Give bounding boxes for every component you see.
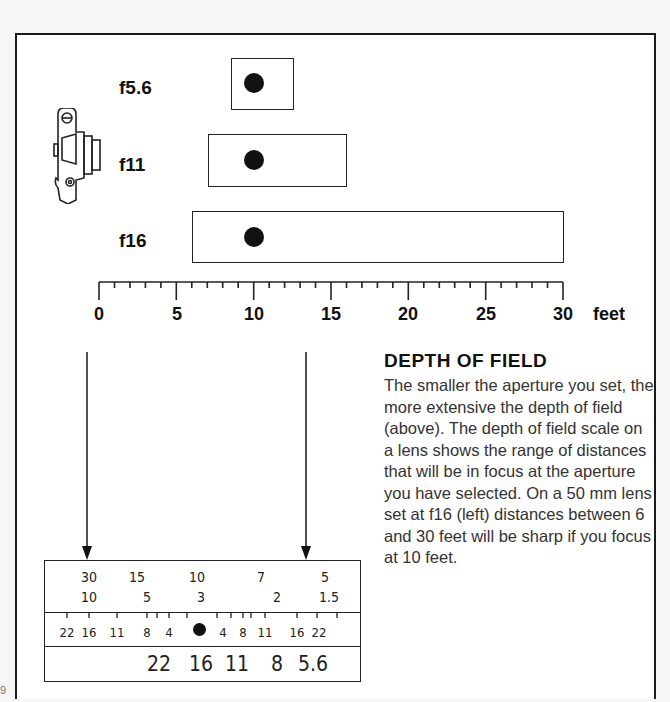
dof-mark-left: 4 (165, 625, 172, 640)
lens-dof-scale: 30 15 10 7 5 10 5 3 2 1.5 22 16 11 8 4 4… (44, 560, 361, 682)
arrow-left (80, 352, 94, 562)
feet-mark: 7 (257, 569, 265, 585)
aperture-ring-mark: 16 (189, 652, 213, 676)
dof-mark-right: 4 (219, 625, 226, 640)
dof-range-f11 (208, 134, 347, 187)
focus-point-dot (244, 73, 264, 93)
scale-tick-20: 20 (398, 304, 418, 325)
feet-mark: 5 (321, 569, 329, 585)
meter-mark: 1.5 (319, 589, 339, 605)
arrow-right (299, 352, 313, 562)
aperture-label-f16: f16 (119, 230, 146, 252)
dof-mark-right: 8 (239, 625, 246, 640)
scale-tick-5: 5 (172, 304, 182, 325)
aperture-label-f5-6: f5.6 (119, 77, 152, 99)
section-body: The smaller the aperture you set, the mo… (384, 375, 654, 569)
distance-scale-axis (95, 278, 570, 304)
scale-tick-25: 25 (476, 304, 496, 325)
feet-mark: 15 (129, 569, 145, 585)
feet-mark: 30 (81, 569, 97, 585)
feet-mark: 10 (189, 569, 205, 585)
aperture-label-f11: f11 (119, 154, 145, 176)
focus-index-dot (193, 623, 206, 636)
meter-mark: 5 (143, 589, 151, 605)
dof-mark-left: 11 (110, 625, 125, 640)
aperture-ring-mark: 8 (271, 652, 283, 676)
camera-side-icon (50, 108, 108, 204)
aperture-ring-mark: 11 (225, 652, 249, 676)
aperture-ring-mark: 22 (147, 652, 171, 676)
scale-unit: feet (593, 304, 625, 325)
dof-mark-right: 11 (258, 625, 273, 640)
divider (45, 646, 360, 647)
dof-mark-right: 16 (290, 625, 305, 640)
section-heading: DEPTH OF FIELD (384, 350, 547, 372)
dof-ticks (45, 612, 362, 622)
meter-mark: 2 (273, 589, 281, 605)
aperture-ring-mark: 5.6 (298, 652, 328, 676)
focus-point-dot (244, 227, 264, 247)
dof-mark-left: 16 (82, 625, 97, 640)
dof-mark-left: 22 (60, 625, 75, 640)
meter-mark: 10 (81, 589, 97, 605)
scale-tick-0: 0 (94, 304, 104, 325)
scale-tick-10: 10 (244, 304, 264, 325)
scale-tick-30: 30 (553, 304, 573, 325)
dof-mark-left: 8 (143, 625, 150, 640)
scale-tick-15: 15 (321, 304, 341, 325)
focus-point-dot (244, 150, 264, 170)
dof-mark-right: 22 (312, 625, 327, 640)
meter-mark: 3 (197, 589, 205, 605)
page-number: 9 (0, 684, 6, 696)
